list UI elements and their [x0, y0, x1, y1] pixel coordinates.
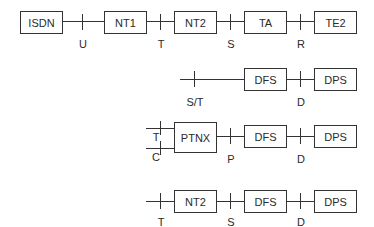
box-label: PTNX [181, 132, 210, 144]
ref-label: C [146, 151, 166, 163]
box-label: TE2 [325, 17, 345, 29]
box-label: NT2 [185, 196, 206, 208]
ref-point-tick [300, 71, 301, 87]
ref-label: T [146, 131, 166, 143]
ref-point-tick [160, 193, 161, 209]
box-label: DPS [324, 131, 347, 143]
isdn-box: ISDN [20, 11, 63, 34]
nt2-box: NT2 [174, 11, 217, 34]
dfs-box: DFS [244, 68, 287, 91]
ptnx-box: PTNX [174, 122, 217, 153]
ref-label: P [221, 153, 241, 165]
ta-box: TA [244, 11, 287, 34]
ref-point-tick [230, 193, 231, 209]
dps-box: DPS [314, 190, 357, 213]
box-label: NT2 [185, 17, 206, 29]
ref-point-tick [194, 71, 195, 87]
ref-label: U [73, 38, 93, 50]
box-label: DPS [324, 196, 347, 208]
ref-point-tick [300, 14, 301, 30]
dfs-box: DFS [244, 125, 287, 148]
box-label: DFS [255, 74, 277, 86]
ref-point-tick [160, 14, 161, 30]
dfs-box: DFS [244, 190, 287, 213]
nt1-box: NT1 [104, 11, 147, 34]
box-label: DFS [255, 196, 277, 208]
box-label: ISDN [28, 17, 54, 29]
ref-label: R [291, 38, 311, 50]
ref-label: S/T [180, 96, 210, 108]
dps-box: DPS [314, 125, 357, 148]
ref-label: T [151, 38, 171, 50]
ref-label: D [291, 153, 311, 165]
dps-box: DPS [314, 68, 357, 91]
ref-point-tick [300, 193, 301, 209]
te2-box: TE2 [314, 11, 357, 34]
ref-point-tick [82, 14, 83, 30]
ref-label: S [221, 38, 241, 50]
ref-point-tick [230, 128, 231, 144]
ref-point-tick [300, 128, 301, 144]
ref-label: S [221, 216, 241, 227]
box-label: NT1 [115, 17, 136, 29]
ref-label: T [151, 216, 171, 227]
box-label: DPS [324, 74, 347, 86]
box-label: DFS [255, 131, 277, 143]
nt2-box: NT2 [174, 190, 217, 213]
ref-label: D [291, 96, 311, 108]
box-label: TA [259, 17, 272, 29]
ref-label: D [291, 216, 311, 227]
ref-point-tick [230, 14, 231, 30]
